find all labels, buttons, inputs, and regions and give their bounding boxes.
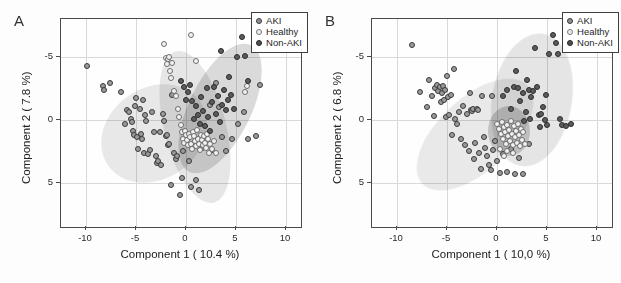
x-tick-label: 10	[581, 232, 611, 243]
data-point-aki	[179, 175, 185, 181]
legend-item-aki[interactable]: AKI	[256, 16, 302, 26]
legend-label-aki: AKI	[266, 16, 281, 26]
x-tick-label: 10	[270, 232, 300, 243]
data-point-healthy	[193, 58, 199, 64]
data-point-nonaki	[213, 111, 219, 117]
data-point-aki	[454, 121, 460, 127]
panel-b: B-10-5051050-5Component 1 ( 10,0 %)Compo…	[311, 0, 621, 283]
data-point-aki	[520, 171, 526, 177]
data-point-aki	[166, 141, 172, 147]
y-tick	[367, 119, 371, 120]
data-point-nonaki	[524, 77, 530, 83]
x-tick-label: -5	[431, 232, 461, 243]
data-point-nonaki	[242, 53, 248, 59]
legend-item-nonaki[interactable]: Non-AKI	[256, 38, 302, 48]
data-point-nonaki	[538, 111, 544, 117]
gridline-horizontal	[61, 183, 301, 184]
data-point-aki	[424, 104, 430, 110]
data-point-aki	[504, 169, 510, 175]
data-point-aki	[471, 156, 477, 162]
data-point-healthy	[175, 106, 181, 112]
data-point-aki	[476, 150, 482, 156]
data-point-aki	[460, 103, 466, 109]
data-point-aki	[235, 121, 241, 127]
data-point-aki	[488, 167, 494, 173]
data-point-nonaki	[245, 78, 251, 84]
legend-marker-aki-icon	[256, 18, 262, 24]
legend-item-healthy[interactable]: Healthy	[567, 27, 613, 37]
data-point-aki	[139, 136, 145, 142]
data-point-nonaki	[178, 78, 184, 84]
data-point-aki	[451, 66, 457, 72]
x-axis-title: Component 1 ( 10,0 %)	[421, 248, 561, 260]
legend-item-healthy[interactable]: Healthy	[256, 27, 302, 37]
data-point-healthy	[510, 150, 516, 156]
x-tick	[546, 226, 547, 230]
y-tick	[56, 182, 60, 183]
data-point-healthy	[213, 150, 219, 156]
data-point-nonaki	[239, 34, 245, 40]
data-point-aki	[168, 182, 174, 188]
data-point-aki	[101, 87, 107, 93]
data-point-aki	[489, 93, 495, 99]
figure-root: A-10-5051050-5Component 1 ( 10.4 %)Compo…	[0, 0, 621, 283]
data-point-healthy	[161, 41, 167, 47]
legend-item-aki[interactable]: AKI	[567, 16, 613, 26]
data-point-aki	[475, 107, 481, 113]
data-point-nonaki	[568, 121, 574, 127]
data-point-nonaki	[543, 92, 549, 98]
data-point-nonaki	[517, 98, 523, 104]
data-point-nonaki	[187, 82, 193, 88]
data-point-aki	[478, 166, 484, 172]
data-point-nonaki	[557, 116, 563, 122]
data-point-aki	[449, 132, 455, 138]
data-point-healthy	[497, 146, 503, 152]
x-tick-label: -10	[70, 232, 100, 243]
data-point-nonaki	[500, 93, 506, 99]
data-point-aki	[448, 92, 454, 98]
data-point-healthy	[522, 141, 528, 147]
data-point-aki	[142, 112, 148, 118]
panel-a: A-10-5051050-5Component 1 ( 10.4 %)Compo…	[0, 0, 310, 283]
legend-item-nonaki[interactable]: Non-AKI	[567, 38, 613, 48]
data-point-aki	[444, 73, 450, 79]
legend-label-nonaki: Non-AKI	[266, 38, 302, 48]
data-point-nonaki	[544, 122, 550, 128]
data-point-healthy	[178, 122, 184, 128]
data-point-aki	[417, 89, 423, 95]
data-point-aki	[446, 112, 452, 118]
data-point-nonaki	[513, 68, 519, 74]
legend-marker-nonaki-icon	[567, 40, 573, 46]
data-point-aki	[107, 80, 113, 86]
data-point-healthy	[173, 93, 179, 99]
data-point-healthy	[166, 54, 172, 60]
legend-label-aki: AKI	[577, 16, 592, 26]
data-point-healthy	[167, 68, 173, 74]
x-tick	[135, 226, 136, 230]
data-point-aki	[137, 106, 143, 112]
gridline-horizontal	[372, 57, 612, 58]
data-point-nonaki	[221, 87, 227, 93]
y-tick-label: -5	[339, 50, 364, 61]
x-tick	[185, 226, 186, 230]
y-tick	[367, 182, 371, 183]
x-tick	[446, 226, 447, 230]
data-point-healthy	[188, 32, 194, 38]
legend-marker-nonaki-icon	[256, 40, 262, 46]
data-point-nonaki	[508, 106, 514, 112]
gridline-horizontal	[372, 183, 612, 184]
data-point-aki	[516, 155, 522, 161]
panel-letter-a: A	[14, 12, 25, 29]
data-point-aki	[160, 111, 166, 117]
data-point-nonaki	[218, 48, 224, 54]
data-point-aki	[431, 113, 437, 119]
x-tick	[596, 226, 597, 230]
data-point-aki	[188, 184, 194, 190]
data-point-aki	[229, 136, 235, 142]
data-point-nonaki	[215, 93, 221, 99]
x-tick-label: -5	[120, 232, 150, 243]
legend-marker-aki-icon	[567, 18, 573, 24]
data-point-aki	[479, 93, 485, 99]
data-point-nonaki	[504, 87, 510, 93]
y-tick	[56, 56, 60, 57]
